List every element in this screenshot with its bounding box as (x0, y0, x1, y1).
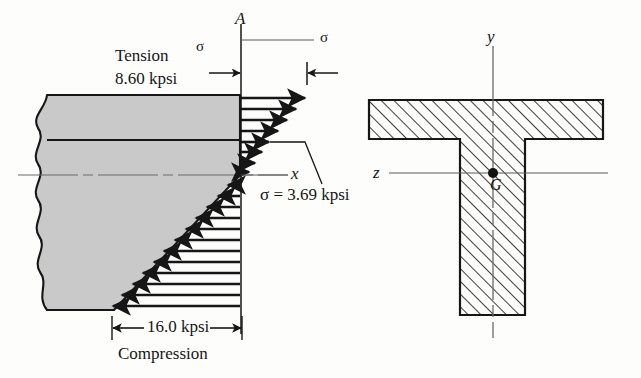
tee-cross-section (369, 100, 603, 315)
z-axis-label: z (373, 164, 380, 181)
tension-sigma-symbol: σ (196, 39, 204, 54)
tension-stress-arrows (241, 98, 305, 172)
junction-stress-callout: σ = 3.69 kpsi (260, 186, 350, 203)
compression-caption: Compression (118, 345, 208, 362)
x-axis-label: x (291, 165, 299, 182)
tension-value: 8.60 kpsi (115, 70, 177, 87)
compression-value: 16.0 kpsi (147, 318, 209, 335)
tension-caption: Tension (115, 47, 169, 64)
y-axis-label: y (487, 28, 495, 45)
centroid-label: G (490, 177, 502, 193)
beam-body (36, 95, 240, 310)
tension-dimension (209, 62, 338, 85)
figure-canvas: A σ Tension σ 8.60 kpsi x σ = 3.69 kpsi … (0, 0, 641, 378)
sigma-axis-label: σ (320, 30, 328, 45)
section-label-A: A (235, 10, 245, 27)
